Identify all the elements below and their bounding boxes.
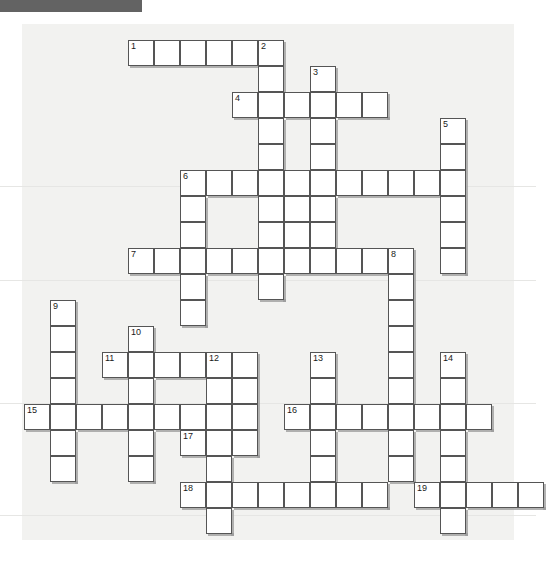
crossword-cell[interactable]	[206, 482, 232, 508]
crossword-cell[interactable]	[180, 404, 206, 430]
crossword-cell[interactable]	[518, 482, 544, 508]
crossword-cell[interactable]	[50, 378, 76, 404]
crossword-cell[interactable]	[310, 170, 336, 196]
crossword-cell[interactable]	[50, 456, 76, 482]
crossword-cell[interactable]	[362, 248, 388, 274]
crossword-cell-numbered-17[interactable]: 17	[180, 430, 206, 456]
crossword-cell[interactable]	[102, 404, 128, 430]
crossword-cell-numbered-5[interactable]: 5	[440, 118, 466, 144]
crossword-cell[interactable]	[128, 378, 154, 404]
crossword-cell-numbered-10[interactable]: 10	[128, 326, 154, 352]
crossword-cell[interactable]	[206, 170, 232, 196]
crossword-cell[interactable]	[414, 170, 440, 196]
crossword-cell[interactable]	[440, 508, 466, 534]
crossword-cell[interactable]	[388, 352, 414, 378]
crossword-cell[interactable]	[206, 378, 232, 404]
crossword-cell[interactable]	[336, 482, 362, 508]
crossword-cell[interactable]	[310, 92, 336, 118]
crossword-cell[interactable]	[232, 404, 258, 430]
crossword-cell[interactable]	[128, 404, 154, 430]
crossword-cell[interactable]	[388, 456, 414, 482]
crossword-cell-numbered-1[interactable]: 1	[128, 40, 154, 66]
crossword-cell[interactable]	[180, 274, 206, 300]
crossword-cell[interactable]	[440, 248, 466, 274]
crossword-cell[interactable]	[206, 404, 232, 430]
crossword-cell[interactable]	[466, 404, 492, 430]
crossword-cell[interactable]	[336, 92, 362, 118]
crossword-cell[interactable]	[310, 378, 336, 404]
crossword-cell-numbered-8[interactable]: 8	[388, 248, 414, 274]
crossword-cell[interactable]	[388, 170, 414, 196]
crossword-cell[interactable]	[258, 92, 284, 118]
crossword-cell[interactable]	[128, 430, 154, 456]
crossword-cell[interactable]	[232, 378, 258, 404]
crossword-cell[interactable]	[206, 456, 232, 482]
crossword-cell[interactable]	[284, 222, 310, 248]
crossword-cell[interactable]	[362, 482, 388, 508]
crossword-cell-numbered-15[interactable]: 15	[24, 404, 50, 430]
crossword-cell[interactable]	[440, 482, 466, 508]
crossword-cell[interactable]	[232, 482, 258, 508]
crossword-cell[interactable]	[362, 92, 388, 118]
crossword-cell[interactable]	[154, 248, 180, 274]
crossword-cell[interactable]	[258, 170, 284, 196]
crossword-cell[interactable]	[388, 274, 414, 300]
crossword-cell[interactable]	[388, 300, 414, 326]
crossword-cell[interactable]	[206, 508, 232, 534]
crossword-cell[interactable]	[362, 404, 388, 430]
crossword-cell[interactable]	[310, 456, 336, 482]
crossword-cell[interactable]	[232, 40, 258, 66]
crossword-cell[interactable]	[414, 404, 440, 430]
crossword-cell[interactable]	[258, 222, 284, 248]
crossword-cell[interactable]	[258, 118, 284, 144]
crossword-cell-numbered-12[interactable]: 12	[206, 352, 232, 378]
crossword-cell[interactable]	[180, 248, 206, 274]
crossword-cell-numbered-7[interactable]: 7	[128, 248, 154, 274]
crossword-cell[interactable]	[310, 222, 336, 248]
crossword-cell[interactable]	[128, 456, 154, 482]
crossword-cell[interactable]	[310, 118, 336, 144]
crossword-cell[interactable]	[258, 66, 284, 92]
crossword-cell[interactable]	[310, 144, 336, 170]
crossword-cell[interactable]	[310, 482, 336, 508]
crossword-cell-numbered-16[interactable]: 16	[284, 404, 310, 430]
crossword-cell-numbered-9[interactable]: 9	[50, 300, 76, 326]
crossword-cell[interactable]	[388, 404, 414, 430]
crossword-cell[interactable]	[180, 222, 206, 248]
crossword-cell[interactable]	[180, 40, 206, 66]
crossword-cell[interactable]	[232, 430, 258, 456]
crossword-cell[interactable]	[492, 482, 518, 508]
crossword-cell[interactable]	[310, 248, 336, 274]
crossword-cell[interactable]	[336, 170, 362, 196]
crossword-cell[interactable]	[440, 222, 466, 248]
crossword-cell[interactable]	[206, 430, 232, 456]
crossword-cell[interactable]	[362, 170, 388, 196]
crossword-cell[interactable]	[180, 300, 206, 326]
crossword-cell[interactable]	[50, 326, 76, 352]
crossword-cell[interactable]	[440, 170, 466, 196]
crossword-cell[interactable]	[258, 196, 284, 222]
crossword-cell[interactable]	[50, 404, 76, 430]
crossword-cell[interactable]	[284, 482, 310, 508]
crossword-cell[interactable]	[180, 196, 206, 222]
crossword-cell[interactable]	[206, 40, 232, 66]
crossword-cell[interactable]	[128, 352, 154, 378]
crossword-cell[interactable]	[284, 92, 310, 118]
crossword-cell[interactable]	[258, 144, 284, 170]
crossword-cell[interactable]	[284, 170, 310, 196]
crossword-cell[interactable]	[440, 456, 466, 482]
crossword-cell[interactable]	[284, 248, 310, 274]
crossword-cell-numbered-2[interactable]: 2	[258, 40, 284, 66]
crossword-cell-numbered-4[interactable]: 4	[232, 92, 258, 118]
crossword-cell[interactable]	[440, 430, 466, 456]
crossword-cell[interactable]	[310, 196, 336, 222]
crossword-cell[interactable]	[232, 248, 258, 274]
crossword-cell[interactable]	[440, 144, 466, 170]
crossword-cell-numbered-3[interactable]: 3	[310, 66, 336, 92]
crossword-cell[interactable]	[232, 352, 258, 378]
crossword-cell[interactable]	[206, 248, 232, 274]
crossword-cell[interactable]	[76, 404, 102, 430]
crossword-cell[interactable]	[336, 404, 362, 430]
crossword-cell[interactable]	[154, 40, 180, 66]
crossword-cell-numbered-13[interactable]: 13	[310, 352, 336, 378]
